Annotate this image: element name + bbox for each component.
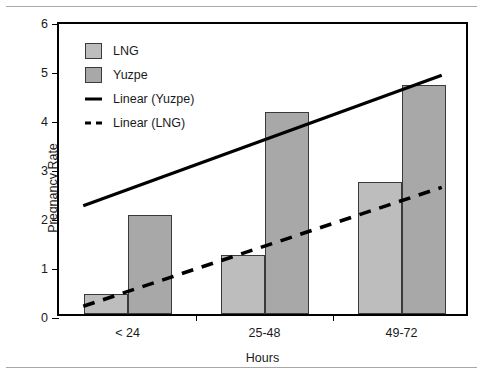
legend-item-linear-yuzpe: Linear (Yuzpe) <box>85 90 194 107</box>
legend-dashed-line-icon <box>85 115 102 131</box>
x-tick-label-1: 25-48 <box>249 326 281 340</box>
y-tick-label-4: 4 <box>41 115 48 129</box>
legend-solid-line-icon <box>85 91 102 107</box>
legend-label-lng: LNG <box>113 44 139 58</box>
x-tick-label-2: 49-72 <box>386 326 418 340</box>
y-tick-2 <box>52 220 59 221</box>
chart-legend: LNG Yuzpe Linear (Yuzpe) Linear (LNG) <box>85 42 194 131</box>
legend-swatch-yuzpe-icon <box>85 67 102 83</box>
x-tick-label-0: < 24 <box>115 326 140 340</box>
bar-yuzpe-1 <box>265 112 309 314</box>
y-tick-label-3: 3 <box>41 164 48 178</box>
legend-item-linear-lng: Linear (LNG) <box>85 114 194 131</box>
plot-area: 0123456 < 2425-4849-72 LNG Yuzpe Linea <box>59 24 466 314</box>
legend-item-lng: LNG <box>85 42 194 59</box>
y-tick-1 <box>52 269 59 270</box>
top-divider-rule <box>6 6 477 7</box>
x-tick-1 <box>196 314 197 321</box>
bar-lng-2 <box>358 182 402 314</box>
bar-lng-1 <box>221 255 265 314</box>
legend-swatch-lng-icon <box>85 43 102 59</box>
legend-label-linear-lng: Linear (LNG) <box>113 116 185 130</box>
y-tick-label-1: 1 <box>41 262 48 276</box>
y-tick-3 <box>52 171 59 172</box>
y-tick-label-2: 2 <box>41 213 48 227</box>
legend-label-yuzpe: Yuzpe <box>113 68 148 82</box>
bar-yuzpe-0 <box>128 215 172 314</box>
chart-figure: Pregnancy Rate 0123456 < 2425-4849-72 LN… <box>0 0 483 376</box>
bottom-divider-rule <box>6 367 477 368</box>
y-tick-5 <box>52 73 59 74</box>
y-tick-0 <box>52 318 59 319</box>
bar-lng-0 <box>84 294 128 314</box>
bar-yuzpe-2 <box>402 85 446 314</box>
x-tick-2 <box>333 314 334 321</box>
y-tick-4 <box>52 122 59 123</box>
y-tick-label-5: 5 <box>41 66 48 80</box>
plot-frame: 0123456 < 2425-4849-72 LNG Yuzpe Linea <box>57 22 468 316</box>
y-tick-label-6: 6 <box>41 17 48 31</box>
x-axis-title: Hours <box>57 351 468 365</box>
legend-item-yuzpe: Yuzpe <box>85 66 194 83</box>
y-tick-6 <box>52 24 59 25</box>
legend-label-linear-yuzpe: Linear (Yuzpe) <box>113 92 194 106</box>
y-tick-label-0: 0 <box>41 311 48 325</box>
